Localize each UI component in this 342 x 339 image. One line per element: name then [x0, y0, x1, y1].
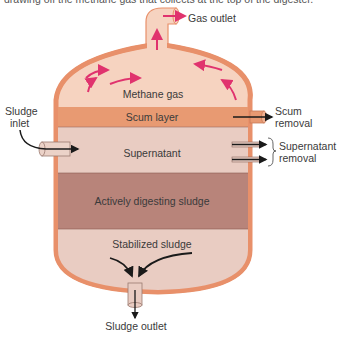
scum-removal-label-2: removal: [275, 117, 312, 129]
digester-illustration: [0, 0, 342, 339]
scum-removal-label-1: Scum: [275, 105, 302, 117]
supernatant-removal-label-2: removal: [279, 152, 316, 164]
methane-gas-label: Methane gas: [123, 88, 184, 100]
anaerobic-digester-diagram: drawing off the methane gas that collect…: [0, 0, 342, 339]
supernatant-removal-label-1: Supernatant: [279, 140, 336, 152]
sludge-inlet-label-2: inlet: [10, 117, 29, 129]
caption-text: drawing off the methane gas that collect…: [4, 0, 313, 5]
scum-layer-label: Scum layer: [126, 111, 179, 123]
active-sludge-label: Actively digesting sludge: [95, 195, 210, 207]
sludge-inlet-label-1: Sludge: [5, 105, 38, 117]
supernatant-label: Supernatant: [123, 147, 180, 159]
stabilized-sludge-label: Stabilized sludge: [112, 238, 191, 250]
gas-outlet-label: Gas outlet: [188, 12, 236, 24]
sludge-outlet-label: Sludge outlet: [105, 320, 166, 332]
